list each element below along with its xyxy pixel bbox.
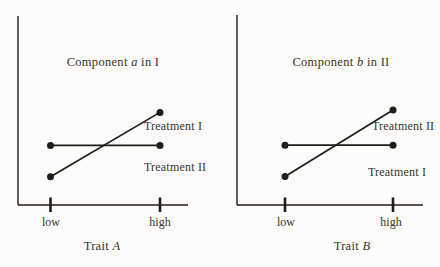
series-label-treatment-ii: Treatment II (144, 161, 206, 174)
x-axis-title-emph: B (362, 239, 370, 253)
x-tick-label-high: high (149, 216, 170, 229)
chart-title-prefix: Component (292, 55, 356, 69)
x-tick-label-high: high (380, 216, 401, 229)
series-label-treatment-i: Treatment I (144, 120, 202, 133)
x-axis-title-emph: A (112, 239, 120, 253)
x-axis-title-prefix: Trait (334, 239, 363, 253)
x-tick-label-low: low (42, 216, 60, 229)
chart-title: Component b in II (292, 56, 389, 70)
series-label-treatment-i: Treatment I (368, 166, 426, 179)
x-tick-label-low: low (277, 216, 295, 229)
chart-title-suffix: in I (138, 55, 160, 69)
plot-lines-canvas (0, 0, 440, 267)
series-label-treatment-ii: Treatment II (372, 120, 434, 133)
chart-title-suffix: in II (363, 55, 389, 69)
chart-title: Component a in I (67, 56, 160, 70)
x-axis-title: Trait B (334, 240, 371, 254)
chart-title-prefix: Component (67, 55, 131, 69)
x-axis-title-prefix: Trait (84, 239, 113, 253)
interaction-plots-figure: Component a in I Treatment I Treatment I… (0, 0, 440, 267)
x-axis-title: Trait A (84, 240, 121, 254)
